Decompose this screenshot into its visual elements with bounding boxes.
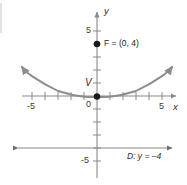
directrix-label: D: y = –4 <box>127 152 161 161</box>
parabola-figure: y x 0 -5 5 5 -5 F = (0, 4) V D: y = –4 <box>0 0 187 185</box>
y-tick-label-neg5: -5 <box>81 156 89 165</box>
vertex-label: V <box>85 78 92 88</box>
focus-point <box>94 41 100 47</box>
origin-label: 0 <box>86 100 91 109</box>
vertex-point <box>94 93 100 99</box>
focus-label: F = (0, 4) <box>104 39 139 48</box>
y-axis-label: y <box>104 6 109 16</box>
y-tick-label-5: 5 <box>86 26 91 35</box>
x-tick-label-neg5: -5 <box>27 102 35 111</box>
x-tick-label-5: 5 <box>159 102 164 111</box>
x-axis-label: x <box>173 102 178 112</box>
